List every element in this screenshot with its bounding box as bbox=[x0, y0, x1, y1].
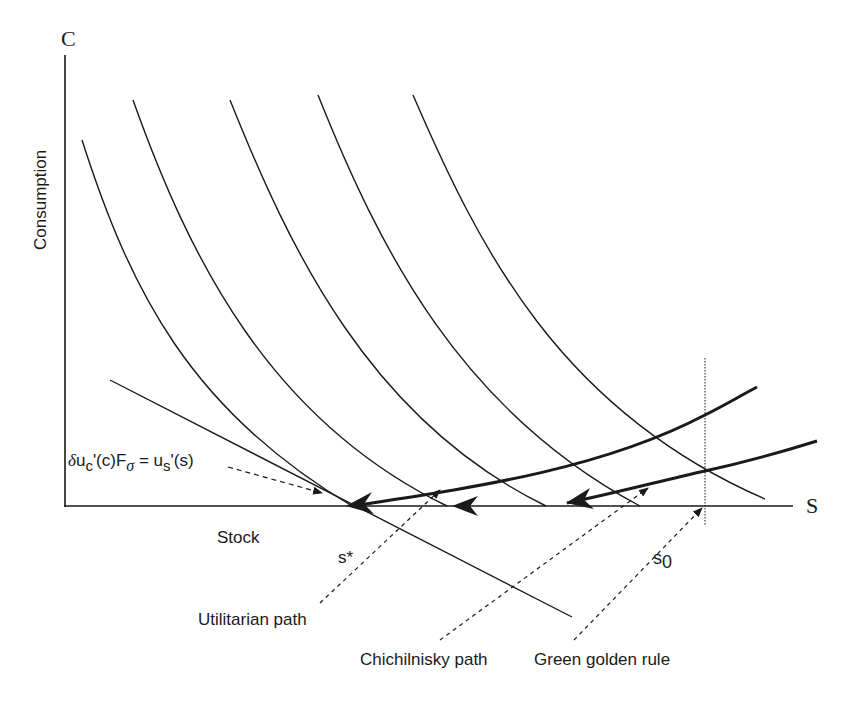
eq-sub-s: s bbox=[163, 457, 171, 474]
diagram-canvas: C S Consumption Stock s* s0 δuc'(c)Fσ = … bbox=[0, 0, 846, 704]
chichilnisky-path-label: Chichilnisky path bbox=[360, 650, 488, 669]
s0-label: s0 bbox=[653, 548, 672, 572]
s0-subscript: 0 bbox=[662, 552, 672, 572]
green-golden-rule-label: Green golden rule bbox=[534, 650, 670, 669]
indifference-curve-2 bbox=[133, 100, 447, 506]
utilitarian-pointer bbox=[320, 490, 440, 603]
y-axis-symbol: C bbox=[61, 26, 76, 51]
eq-mid: '(c)F bbox=[93, 451, 126, 470]
indifference-curve-5 bbox=[413, 95, 765, 499]
eq-equals: = u bbox=[134, 451, 163, 470]
indifference-curve-3 bbox=[230, 100, 546, 506]
s0-base: s bbox=[653, 548, 662, 568]
s-star-label: s* bbox=[338, 548, 354, 567]
green-golden-path-curve bbox=[567, 441, 817, 503]
equation-pointer bbox=[228, 467, 322, 493]
indifference-curve-4 bbox=[318, 95, 640, 506]
green-golden-pointer bbox=[574, 508, 702, 640]
x-axis-label: Stock bbox=[217, 528, 260, 547]
tangent-line bbox=[110, 380, 572, 617]
tangency-equation: δuc'(c)Fσ = us'(s) bbox=[68, 451, 194, 474]
eq-u: u bbox=[76, 451, 85, 470]
indifference-curves bbox=[82, 95, 765, 506]
eq-end: '(s) bbox=[171, 451, 194, 470]
utilitarian-path-label: Utilitarian path bbox=[198, 610, 307, 629]
y-axis-label: Consumption bbox=[31, 150, 50, 250]
x-axis-symbol: S bbox=[806, 493, 818, 518]
